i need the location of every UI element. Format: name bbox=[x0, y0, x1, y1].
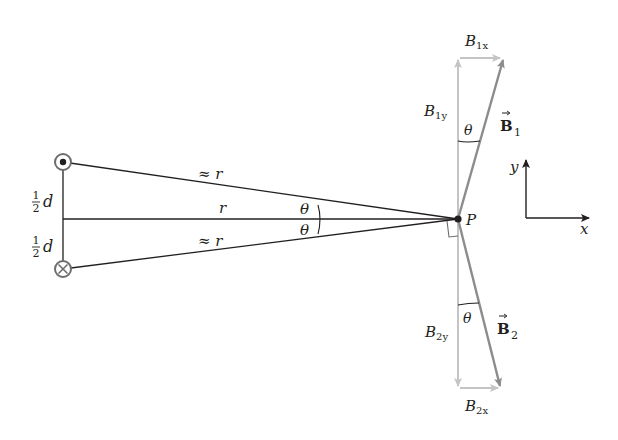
wire-into-page-icon bbox=[55, 261, 71, 277]
svg-text:1: 1 bbox=[33, 189, 40, 202]
axis-y-label: y bbox=[509, 158, 519, 176]
field-diagram: 1 2 d 1 2 d ≈ r r ≈ r θ θ P B1x B1y θ B … bbox=[0, 0, 618, 440]
half-d-bottom-label: 1 2 d bbox=[32, 234, 53, 260]
svg-text:1: 1 bbox=[33, 234, 40, 247]
r-middle-label: r bbox=[219, 199, 227, 217]
approx-r-top-label: ≈ r bbox=[198, 165, 223, 183]
approx-r-bottom-label: ≈ r bbox=[198, 232, 223, 250]
b1-vector-arrow bbox=[458, 60, 503, 219]
wire-out-of-page-icon bbox=[55, 154, 71, 170]
svg-text:d: d bbox=[43, 237, 53, 256]
theta-upper-label: θ bbox=[300, 200, 309, 218]
bottom-wire-to-p-line bbox=[63, 219, 458, 269]
svg-text:d: d bbox=[43, 192, 53, 211]
b2x-label: B2x bbox=[464, 397, 488, 416]
svg-text:2: 2 bbox=[33, 202, 40, 215]
point-p-dot bbox=[454, 215, 461, 222]
xy-axes-icon bbox=[526, 160, 589, 218]
svg-text:B: B bbox=[500, 117, 513, 135]
axis-x-label: x bbox=[580, 220, 589, 238]
svg-text:2: 2 bbox=[511, 329, 518, 342]
svg-text:B: B bbox=[497, 320, 510, 338]
theta-b1-label: θ bbox=[464, 122, 473, 138]
theta-arc-b1 bbox=[458, 141, 480, 142]
svg-text:1: 1 bbox=[514, 126, 521, 139]
svg-text:2: 2 bbox=[33, 247, 40, 260]
point-p-label: P bbox=[465, 211, 477, 229]
theta-arc-b2 bbox=[458, 303, 479, 305]
theta-b2-label: θ bbox=[463, 310, 472, 326]
half-d-top-label: 1 2 d bbox=[32, 189, 53, 215]
b1x-label: B1x bbox=[464, 32, 488, 51]
theta-lower-label: θ bbox=[300, 221, 309, 239]
b1y-label: B1y bbox=[423, 102, 447, 121]
top-wire-to-p-line bbox=[63, 162, 458, 219]
b2y-label: B2y bbox=[424, 323, 448, 342]
right-angle-marker bbox=[447, 221, 458, 237]
b1-vector-label: B 1 bbox=[500, 111, 521, 139]
b2-vector-label: B 2 bbox=[497, 314, 518, 342]
